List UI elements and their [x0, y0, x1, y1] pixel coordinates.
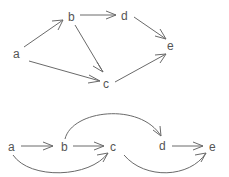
node-e: e: [167, 39, 174, 53]
graph-canvas: a b c d e: [0, 0, 229, 177]
edge-a-b: [24, 20, 63, 47]
node-c: c: [110, 140, 116, 154]
node-e: e: [209, 140, 216, 154]
edge-a-b: [21, 142, 53, 150]
edge-a-c: [13, 153, 108, 173]
edge-b-d: [65, 114, 161, 139]
edge-d-e: [134, 17, 166, 39]
node-a: a: [13, 47, 20, 61]
node-d: d: [121, 9, 128, 23]
node-b: b: [68, 10, 75, 24]
edge-b-c: [75, 25, 103, 72]
edge-b-c: [73, 142, 104, 150]
node-a: a: [8, 140, 15, 154]
edge-b-d: [80, 11, 116, 19]
node-c: c: [103, 77, 109, 91]
edge-a-c: [29, 61, 100, 83]
edge-c-e: [115, 54, 166, 82]
edge-c-e: [124, 153, 206, 173]
node-b: b: [61, 140, 68, 154]
node-d: d: [159, 139, 166, 153]
edge-d-e: [172, 142, 203, 150]
bottom-graph: a b c d e: [8, 114, 216, 173]
top-graph: a b c d e: [13, 9, 174, 91]
